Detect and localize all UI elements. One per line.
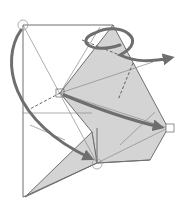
- right-square-marker: [166, 124, 174, 132]
- shaded-flap: [25, 25, 168, 197]
- origami-diagram: [0, 0, 184, 201]
